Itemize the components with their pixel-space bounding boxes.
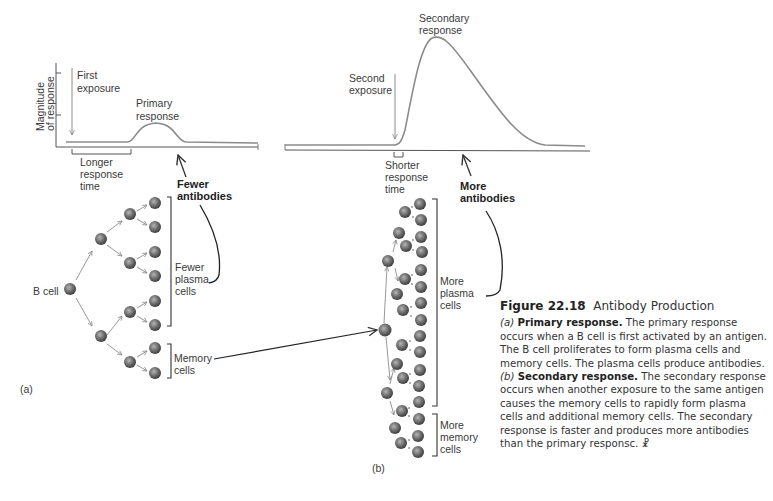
svg-text:cells: cells: [440, 299, 461, 311]
svg-text:response: response: [136, 110, 179, 122]
more-memory-cells-bracket: [432, 414, 437, 456]
caption-part-b: (b) Secondary response. The secondary re…: [500, 370, 770, 450]
svg-text:response: response: [419, 24, 462, 36]
interactive-figure-icon[interactable]: ☧: [642, 438, 650, 449]
svg-text:exposure: exposure: [349, 84, 392, 96]
fewer-plasma-cells-label: Fewer: [175, 261, 205, 273]
more-memory-cells-label: More: [440, 419, 464, 431]
memory-cell-activated: [379, 324, 392, 337]
memory-cells-bracket: [167, 344, 171, 378]
svg-text:antibodies: antibodies: [460, 192, 515, 204]
longer-response-time-bracket: [72, 149, 131, 154]
fewer-antibodies-arrow: [178, 155, 186, 177]
b-cell: [64, 283, 76, 295]
svg-text:plasma: plasma: [440, 287, 474, 299]
secondary-response-label: Secondary: [419, 12, 470, 24]
primary-response-curve: [66, 123, 258, 143]
svg-text:of response: of response: [44, 76, 56, 131]
graph-secondary-response: Secondary response Second exposure Short…: [285, 12, 590, 204]
svg-text:cells: cells: [440, 443, 461, 455]
shorter-response-time-label: Shorter: [385, 159, 420, 171]
panel-a-label: (a): [20, 383, 33, 395]
svg-text:exposure: exposure: [77, 82, 120, 94]
panel-a-cell-lineage: B cell: [20, 197, 377, 395]
x-axis: [285, 150, 590, 151]
caption-part-a: (a) Primary response. The primary respon…: [500, 316, 770, 370]
svg-text:cells: cells: [174, 364, 195, 376]
svg-text:response: response: [385, 171, 428, 183]
figure-number: Figure 22.18: [500, 299, 586, 313]
fewer-plasma-cells-bracket: [167, 197, 171, 326]
panel-b-cell-lineage: More plasma cells More memory cells (b): [372, 198, 502, 474]
secondary-response-curve: [285, 37, 585, 146]
more-antibodies-label: More: [460, 180, 486, 192]
more-plasma-cells-bracket: [432, 199, 437, 406]
svg-text:memory: memory: [440, 431, 479, 443]
figure-title: Figure 22.18 Antibody Production: [500, 300, 770, 313]
fewer-antibodies-label: Fewer: [177, 178, 210, 190]
svg-text:time: time: [80, 180, 100, 192]
graph-primary-response: Magnitude of response First exposure Pri…: [34, 63, 258, 202]
second-exposure-label: Second: [349, 72, 385, 84]
figure-name: Antibody Production: [593, 299, 714, 313]
primary-response-label: Primary: [136, 97, 173, 109]
first-exposure-label: First: [77, 69, 97, 81]
more-antibodies-arrow: [463, 155, 471, 176]
panel-b-label: (b): [372, 462, 385, 474]
svg-text:antibodies: antibodies: [177, 190, 232, 202]
shorter-response-time-bracket: [394, 152, 403, 157]
memory-cells-label: Memory: [174, 352, 213, 364]
more-plasma-cells-label: More: [440, 275, 464, 287]
b-cell-label: B cell: [33, 285, 59, 297]
svg-text:time: time: [385, 183, 405, 195]
antibodies-connector: [486, 211, 502, 296]
svg-text:response: response: [80, 168, 123, 180]
svg-text:plasma: plasma: [175, 273, 209, 285]
memory-to-secondary-arrow: [214, 330, 377, 359]
figure-caption: Figure 22.18 Antibody Production (a) Pri…: [500, 300, 770, 450]
svg-text:cells: cells: [175, 285, 196, 297]
longer-response-time-label: Longer: [80, 156, 113, 168]
